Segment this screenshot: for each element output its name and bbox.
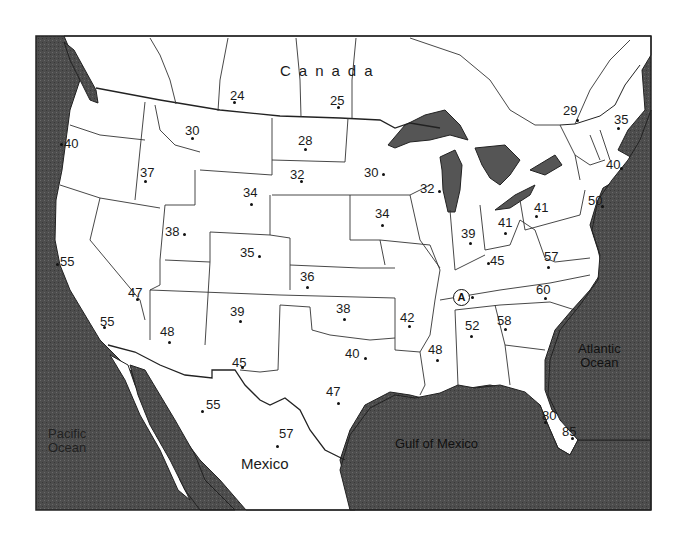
city-dot-california <box>56 263 59 266</box>
city-dot-mexico-central <box>276 445 279 448</box>
pacific-line-2: Ocean <box>48 441 86 455</box>
value-label-pennsylvania: 41 <box>534 201 548 214</box>
city-dot-massachusetts <box>620 167 623 170</box>
value-label-wisconsin: 32 <box>420 182 434 195</box>
atlantic-line-2: Ocean <box>578 356 621 370</box>
value-label-mexico-central: 57 <box>279 427 293 440</box>
city-dot-socal <box>103 326 106 329</box>
value-label-montana: 30 <box>185 124 199 137</box>
value-label-ohio: 41 <box>498 216 512 229</box>
value-label-north-dakota: 28 <box>298 134 312 147</box>
location-marker-a: A <box>453 289 470 306</box>
value-label-quebec: 29 <box>563 104 577 117</box>
city-dot-alabama <box>470 335 473 338</box>
value-label-georgia: 58 <box>497 314 511 327</box>
city-dot-wyoming <box>250 203 253 206</box>
value-label-canada-1: 24 <box>230 89 244 102</box>
value-label-mexico-north: 55 <box>206 398 220 411</box>
pacific-line-1: Pacific <box>48 427 86 441</box>
value-label-alabama: 52 <box>465 319 479 332</box>
city-dot-arizona <box>168 341 171 344</box>
value-label-virginia: 57 <box>544 250 558 263</box>
city-dot-minnesota <box>382 173 385 176</box>
value-label-new-mexico: 39 <box>230 305 244 318</box>
city-dot-arkansas <box>408 325 411 328</box>
value-label-idaho: 37 <box>140 166 154 179</box>
value-label-massachusetts: 40 <box>606 158 620 171</box>
value-label-arkansas: 42 <box>400 311 414 324</box>
city-dot-texas-central <box>337 402 340 405</box>
city-dot-florida-east <box>571 437 574 440</box>
value-label-maine: 35 <box>614 113 628 126</box>
city-dot-indiana <box>469 242 472 245</box>
value-label-minnesota: 30 <box>364 166 378 179</box>
value-label-south-dakota: 32 <box>290 168 304 181</box>
value-label-nevada-south: 47 <box>128 286 142 299</box>
value-label-wyoming: 34 <box>243 186 257 199</box>
city-dot-canada-1 <box>233 101 236 104</box>
city-dot-oklahoma <box>343 318 346 321</box>
city-dot-wisconsin <box>438 190 441 193</box>
map-graphic <box>0 0 687 533</box>
value-label-kansas: 36 <box>300 270 314 283</box>
value-label-oklahoma: 38 <box>336 302 350 315</box>
city-dot-oregon <box>60 143 63 146</box>
city-dot-mississippi <box>436 359 439 362</box>
city-dot-iowa <box>381 224 384 227</box>
city-dot-canada-2 <box>337 106 340 109</box>
atlantic-line-1: Atlantic <box>578 342 621 356</box>
city-dot-virginia <box>547 266 550 269</box>
city-dot-idaho <box>144 180 147 183</box>
city-dot-new-mexico <box>239 320 242 323</box>
value-label-oregon: 40 <box>64 137 78 150</box>
city-dot-north-carolina <box>544 297 547 300</box>
city-dot-georgia <box>504 328 507 331</box>
city-dot-el-paso <box>241 366 244 369</box>
city-dot-nevada-south <box>136 298 139 301</box>
canada-label: Canada <box>280 62 381 79</box>
value-label-iowa: 34 <box>375 207 389 220</box>
value-label-texas-central: 47 <box>326 385 340 398</box>
gulf-of-mexico-label: Gulf of Mexico <box>395 437 478 451</box>
city-dot-colorado <box>258 255 261 258</box>
mexico-label: Mexico <box>241 455 289 472</box>
city-dot-montana <box>191 137 194 140</box>
value-label-california: 55 <box>60 255 74 268</box>
city-dot-quebec <box>576 119 579 122</box>
city-dot-ohio <box>504 232 507 235</box>
city-dot-kentucky <box>487 262 490 265</box>
value-label-indiana: 39 <box>461 227 475 240</box>
city-dot-florida-west <box>544 421 547 424</box>
city-dot-new-jersey <box>601 205 604 208</box>
value-label-el-paso: 45 <box>232 356 246 369</box>
city-dot-kansas <box>306 286 309 289</box>
value-label-utah: 38 <box>165 225 179 238</box>
city-dot-pennsylvania <box>535 215 538 218</box>
value-label-kentucky: 45 <box>490 254 504 267</box>
city-dot-north-dakota <box>304 148 307 151</box>
pacific-ocean-label: Pacific Ocean <box>48 427 86 454</box>
temperature-map: Canada Mexico Pacific Ocean Atlantic Oce… <box>0 0 687 533</box>
city-dot-texas-north <box>364 357 367 360</box>
value-label-north-carolina: 60 <box>536 283 550 296</box>
value-label-texas-north: 40 <box>345 347 359 360</box>
value-label-florida-east: 85 <box>562 425 576 438</box>
city-dot-utah <box>183 233 186 236</box>
city-dot-south-dakota <box>300 180 303 183</box>
location-marker-a-dot <box>471 296 474 299</box>
city-dot-maine <box>617 127 620 130</box>
value-label-colorado: 35 <box>240 246 254 259</box>
city-dot-mexico-north <box>201 410 204 413</box>
atlantic-ocean-label: Atlantic Ocean <box>578 342 621 369</box>
value-label-mississippi: 48 <box>428 343 442 356</box>
value-label-arizona: 48 <box>160 325 174 338</box>
